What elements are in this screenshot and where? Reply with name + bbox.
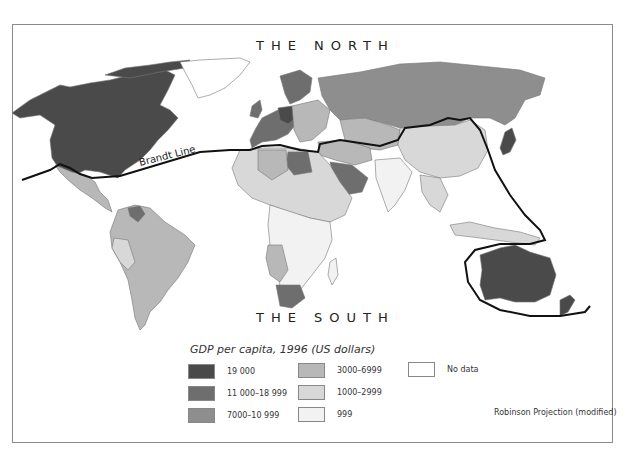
legend-item-11000-18999: 11 000–18 999 [188, 386, 287, 401]
legend-item-1000-2999: 1000–2999 [298, 385, 382, 400]
legend-label: 999 [337, 410, 352, 419]
legend-swatch [188, 408, 215, 423]
legend-swatch [298, 363, 325, 378]
new-zealand [560, 295, 575, 316]
legend-swatch [298, 385, 325, 400]
china [398, 120, 488, 178]
south-africa [276, 285, 305, 308]
projection-note: Robinson Projection (modified) [494, 408, 617, 417]
australia [480, 245, 556, 302]
legend-label: 3000–6999 [337, 366, 382, 375]
legend-label: 11 000–18 999 [227, 389, 287, 398]
japan [500, 128, 516, 155]
legend-swatch [408, 362, 435, 377]
indonesia [450, 222, 540, 245]
legend-label: No data [447, 365, 478, 374]
legend-swatch [188, 386, 215, 401]
legend-item-19000: 19 000 [188, 364, 255, 379]
legend-item-3000-6999: 3000–6999 [298, 363, 382, 378]
greenland [180, 58, 250, 98]
legend-label: 7000–10 999 [227, 411, 279, 420]
north-label: THE NORTH [256, 38, 395, 53]
south-america [110, 205, 195, 330]
uk [250, 100, 262, 118]
legend-swatch [298, 407, 325, 422]
southeast-asia [420, 175, 448, 212]
legend-swatch [188, 364, 215, 379]
south-label: THE SOUTH [256, 310, 395, 325]
legend-item-7000-10999: 7000–10 999 [188, 408, 279, 423]
scandinavia [280, 70, 312, 104]
eastern-europe [292, 100, 330, 142]
legend-item-999: 999 [298, 407, 352, 422]
legend-label: 1000–2999 [337, 388, 382, 397]
madagascar [328, 258, 338, 285]
legend-title: GDP per capita, 1996 (US dollars) [190, 343, 375, 356]
legend-item-no-data: No data [408, 362, 478, 377]
legend-label: 19 000 [227, 367, 255, 376]
india [375, 158, 412, 212]
